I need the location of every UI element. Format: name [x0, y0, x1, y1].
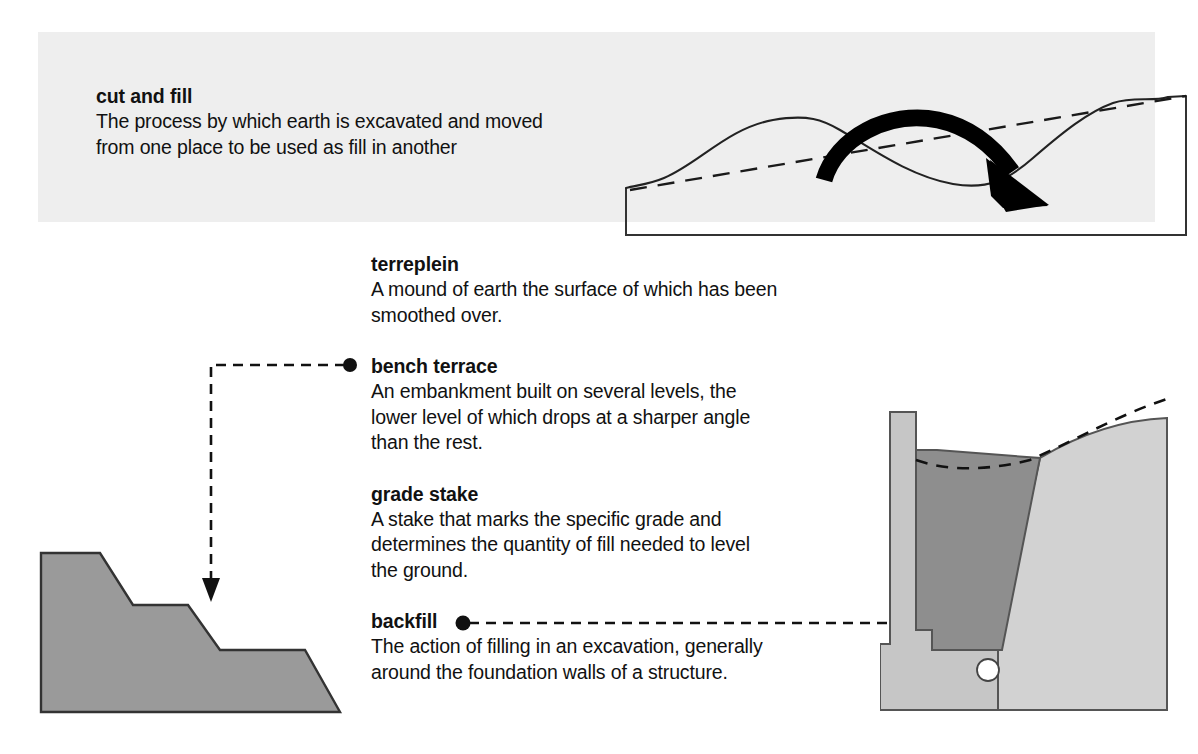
definition-bench-terrace: An embankment built on several levels, t… [371, 379, 871, 456]
drain-pipe [977, 659, 999, 681]
glossary-entry-bench-terrace: bench terrace An embankment built on sev… [371, 354, 871, 456]
term-bench-terrace: bench terrace [371, 354, 498, 379]
glossary-column: terreplein A mound of earth the surface … [371, 252, 871, 685]
leader-dot-bench-terrace [343, 358, 357, 372]
definition-cut-and-fill: The process by which earth is excavated … [96, 109, 636, 160]
definition-terreplein: A mound of earth the surface of which ha… [371, 277, 871, 328]
term-backfill: backfill [371, 609, 437, 634]
glossary-entry-terreplein: terreplein A mound of earth the surface … [371, 252, 871, 328]
cut-and-fill-text-block: cut and fill The process by which earth … [96, 84, 636, 160]
term-row-grade-stake: grade stake [371, 482, 871, 507]
bench-terrace-figure [20, 520, 380, 750]
definition-grade-stake: A stake that marks the specific grade an… [371, 507, 871, 584]
term-row-terreplein: terreplein [371, 252, 871, 277]
term-row-bench-terrace: bench terrace [371, 354, 871, 379]
term-row-backfill: backfill [371, 609, 871, 634]
backfill-foundation-figure [880, 398, 1180, 750]
glossary-entry-backfill: backfill The action of filling in an exc… [371, 609, 871, 685]
definition-backfill: The action of filling in an excavation, … [371, 634, 871, 685]
term-cut-and-fill: cut and fill [96, 84, 636, 109]
term-terreplein: terreplein [371, 252, 459, 277]
cut-and-fill-panel: cut and fill The process by which earth … [38, 32, 1155, 222]
cut-and-fill-terrain-figure [608, 72, 1198, 252]
term-grade-stake: grade stake [371, 482, 478, 507]
earth-movement-arrow [824, 118, 1049, 212]
glossary-entry-grade-stake: grade stake A stake that marks the speci… [371, 482, 871, 584]
bench-terrace-shape [41, 553, 340, 712]
